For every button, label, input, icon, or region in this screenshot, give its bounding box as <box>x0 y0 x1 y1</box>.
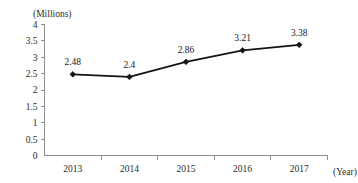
y-tick-label: 4 <box>33 20 38 30</box>
data-point-label: 2.86 <box>178 45 195 55</box>
data-point-marker <box>183 59 189 65</box>
y-tick-label: 0.5 <box>26 135 38 145</box>
y-tick-label: 1.5 <box>26 102 38 112</box>
y-tick-label: 0 <box>33 151 38 161</box>
y-tick-label: 3 <box>33 53 38 63</box>
data-point-label: 3.38 <box>291 28 308 38</box>
data-point-label: 3.21 <box>234 33 251 43</box>
y-tick-label: 3.5 <box>26 36 38 46</box>
x-tick-label: 2017 <box>290 164 309 174</box>
y-tick-label: 1 <box>33 118 38 128</box>
y-axis-unit-label: (Millions) <box>33 9 72 20</box>
x-axis-ticks: 20132014201520162017 <box>63 156 309 174</box>
x-tick-label: 2013 <box>63 164 82 174</box>
data-point-marker <box>240 47 246 53</box>
data-point-label: 2.4 <box>123 60 135 70</box>
y-axis-ticks: 00.511.522.533.54 <box>26 20 45 161</box>
chart-canvas: (Millions) 00.511.522.533.54 20132014201… <box>0 0 358 183</box>
x-tick-label: 2014 <box>120 164 139 174</box>
x-tick-label: 2015 <box>177 164 196 174</box>
data-point-marker <box>70 71 76 77</box>
data-point-label: 2.48 <box>64 57 81 67</box>
x-tick-label: 2016 <box>233 164 252 174</box>
data-point-marker <box>296 42 302 48</box>
y-tick-label: 2.5 <box>26 69 38 79</box>
x-axis-unit-label: (Year) <box>333 167 357 178</box>
y-tick-label: 2 <box>33 85 38 95</box>
data-point-marker <box>127 74 133 80</box>
line-chart: (Millions) 00.511.522.533.54 20132014201… <box>0 0 358 183</box>
x-axis-line <box>45 156 328 161</box>
